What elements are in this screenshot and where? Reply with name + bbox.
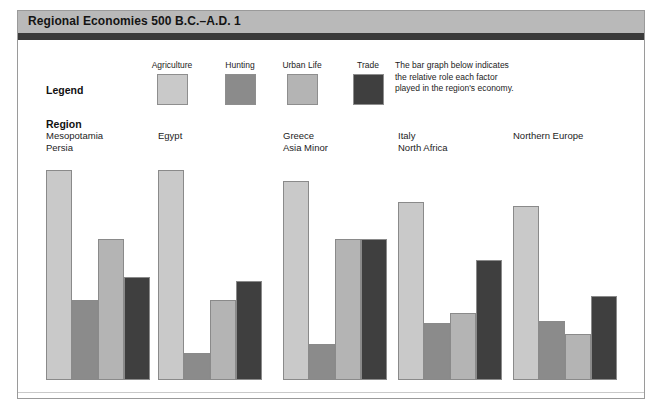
- bar-group-bars: [283, 170, 387, 380]
- bar-trade: [236, 281, 262, 380]
- legend-item-agriculture: Agriculture: [140, 60, 204, 105]
- legend-swatch-trade: [353, 74, 384, 105]
- bar-urban-life: [565, 334, 591, 380]
- bar-group-label: Egypt: [158, 130, 182, 142]
- legend-swatch-agriculture: [157, 74, 188, 105]
- legend-item-label: Hunting: [208, 60, 272, 70]
- bar-hunting: [539, 321, 565, 380]
- bar-group-mesopotamia-persia: MesopotamiaPersia: [46, 130, 164, 382]
- legend-item-label: Urban Life: [270, 60, 334, 70]
- bar-hunting: [184, 353, 210, 380]
- bar-agriculture: [513, 206, 539, 380]
- caption-line-3: played in the region's economy.: [395, 83, 595, 95]
- bar-group-egypt: Egypt: [158, 130, 276, 382]
- bar-agriculture: [46, 170, 72, 380]
- chart-page: Regional Economies 500 B.C.–A.D. 1 Legen…: [0, 0, 663, 410]
- bar-group-bars: [158, 170, 262, 380]
- page-title: Regional Economies 500 B.C.–A.D. 1: [28, 14, 241, 28]
- chart-baseline: [18, 392, 644, 393]
- legend-item-trade: Trade: [336, 60, 400, 105]
- bar-urban-life: [98, 239, 124, 380]
- caption-line-1: The bar graph below indicates: [395, 60, 595, 72]
- bar-group-italy-north-africa: ItalyNorth Africa: [398, 130, 516, 382]
- bar-group-bars: [46, 170, 150, 380]
- bar-trade: [591, 296, 617, 380]
- bar-group-northern-europe: Northern Europe: [513, 130, 631, 382]
- legend-heading: Legend: [46, 84, 83, 96]
- bar-hunting: [424, 323, 450, 380]
- bar-urban-life: [335, 239, 361, 380]
- caption-line-2: the relative role each factor: [395, 72, 595, 84]
- bar-agriculture: [398, 202, 424, 381]
- legend-item-urban-life: Urban Life: [270, 60, 334, 105]
- bar-hunting: [309, 344, 335, 380]
- bar-hunting: [72, 300, 98, 380]
- legend-item-hunting: Hunting: [208, 60, 272, 105]
- bar-group-bars: [513, 170, 617, 380]
- bar-urban-life: [450, 313, 476, 380]
- bar-trade: [476, 260, 502, 380]
- bar-agriculture: [283, 181, 309, 381]
- bar-group-label: MesopotamiaPersia: [46, 130, 103, 154]
- legend-item-label: Trade: [336, 60, 400, 70]
- legend-swatch-urban-life: [287, 74, 318, 105]
- legend-swatch-hunting: [225, 74, 256, 105]
- bar-trade: [124, 277, 150, 380]
- bar-group-bars: [398, 170, 502, 380]
- bar-group-label: ItalyNorth Africa: [398, 130, 448, 154]
- bar-agriculture: [158, 170, 184, 380]
- legend-item-label: Agriculture: [140, 60, 204, 70]
- chart-caption: The bar graph below indicates the relati…: [395, 60, 595, 95]
- bar-trade: [361, 239, 387, 380]
- bar-urban-life: [210, 300, 236, 380]
- region-heading: Region: [46, 118, 82, 130]
- legend: Agriculture Hunting Urban Life Trade: [140, 60, 390, 112]
- title-bar-shadow: [18, 33, 644, 40]
- bar-group-label: Northern Europe: [513, 130, 583, 142]
- bar-group-label: GreeceAsia Minor: [283, 130, 328, 154]
- bar-group-greece-asia-minor: GreeceAsia Minor: [283, 130, 401, 382]
